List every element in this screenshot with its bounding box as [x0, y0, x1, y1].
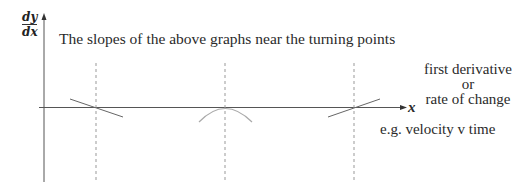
y-axis-label-denominator: dx	[22, 26, 38, 38]
side-label-line3: rate of change	[413, 92, 521, 107]
side-label-line1: first derivative	[413, 62, 521, 77]
x-axis-arrow-icon	[400, 105, 407, 110]
example-label: e.g. velocity v time	[380, 121, 495, 138]
x-axis-label: x	[408, 99, 416, 116]
y-axis-label-numerator: dy	[22, 11, 37, 23]
y-axis-label: dy dx	[22, 11, 38, 38]
y-axis-arrow-icon	[42, 13, 47, 20]
side-label: first derivative or rate of change	[413, 62, 521, 107]
diagram-title: The slopes of the above graphs near the …	[59, 30, 395, 48]
side-label-line2: or	[413, 77, 521, 92]
